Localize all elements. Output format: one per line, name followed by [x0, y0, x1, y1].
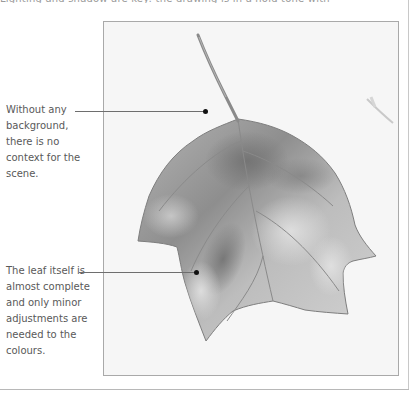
leaf-illustration	[103, 21, 399, 376]
cut-off-text-line: Lighting and shadow are key: the drawing…	[0, 0, 330, 3]
annotation-caption-background: Without any background, there is no cont…	[6, 102, 92, 182]
leaf-painting-figure	[103, 21, 399, 376]
annotation-pointer-dot	[203, 109, 208, 114]
annotation-pointer-dot	[194, 270, 199, 275]
annotation-leader-line	[75, 111, 205, 112]
page-edge-bottom-rule	[0, 389, 409, 390]
annotation-caption-leaf: The leaf itself is almost complete and o…	[6, 263, 92, 359]
page-edge-right-rule	[408, 0, 409, 390]
annotation-leader-line	[79, 272, 196, 273]
